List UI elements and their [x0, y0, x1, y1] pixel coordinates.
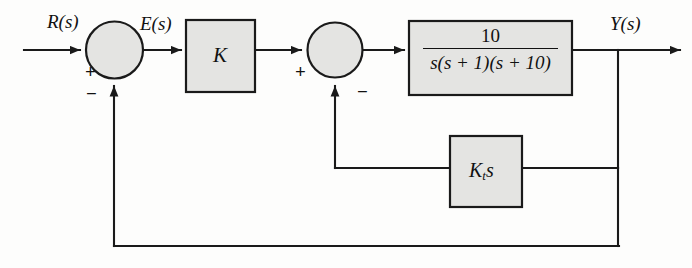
rate-feedback-block-label: Kts: [469, 160, 494, 180]
plant-transfer-function: 10 s(s + 1)(s + 10): [419, 26, 562, 72]
rate-gain-symbol: K: [469, 159, 482, 181]
rate-gain-subscript: t: [482, 168, 486, 183]
block-diagram: R(s) E(s) Y(s) + − + − K 10 s(s + 1)(s +…: [0, 0, 692, 268]
rate-laplace-symbol: s: [486, 159, 494, 181]
plant-denominator: s(s + 1)(s + 10): [419, 49, 562, 72]
summer1-feedback-sign: −: [86, 84, 97, 103]
plant-numerator: 10: [419, 26, 562, 48]
summer2-input-sign: +: [295, 62, 306, 81]
input-signal-label: R(s): [47, 12, 79, 31]
diagram-canvas: [0, 0, 692, 268]
summing-junction-2: [308, 23, 363, 78]
summer1-input-sign: +: [85, 62, 96, 81]
output-signal-label: Y(s): [610, 14, 641, 33]
summer2-feedback-sign: −: [357, 82, 368, 101]
error-signal-label: E(s): [140, 14, 172, 33]
gain-block-label: K: [213, 45, 227, 66]
